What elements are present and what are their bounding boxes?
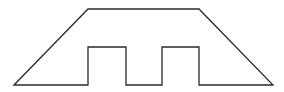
trapezoid-diagram [0,0,284,92]
notched-trapezoid-shape [14,9,273,85]
diagram-canvas [0,0,284,92]
